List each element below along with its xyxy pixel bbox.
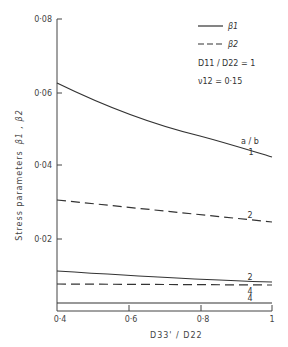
- y-tick-label: 0·02: [34, 235, 52, 244]
- curve-group-label: a / b: [241, 137, 259, 146]
- x-axis: 0·4 0·6 0·8 1: [54, 305, 275, 324]
- chart: 0·08 0·06 0·04 0·02 0·4 0·6 0·8 1 D33' /…: [0, 0, 288, 347]
- curve-label-2-solid: 2: [247, 273, 252, 282]
- x-axis-title: D33' / D22: [150, 331, 203, 340]
- y-tick-label: 0·06: [34, 89, 52, 98]
- y-axis: 0·08 0·06 0·04 0·02: [34, 15, 62, 311]
- x-tick-label: 0·6: [125, 315, 138, 324]
- curve-label-1: 1: [248, 148, 253, 157]
- x-tick-label: 0·8: [197, 315, 210, 324]
- legend-poisson-annotation: ν12 = 0·15: [198, 77, 242, 86]
- y-tick-label: 0·04: [34, 161, 52, 170]
- y-axis-title-text: Stress parametersβ1 , β2: [15, 109, 24, 241]
- y-tick-label: 0·08: [34, 15, 52, 24]
- curve-label-4-solid: 4: [247, 294, 252, 303]
- plot-area: [57, 83, 272, 303]
- legend: β1 β2 D11 / D22 = 1 ν12 = 0·15: [198, 22, 255, 86]
- curve-beta1-ab1: [57, 83, 272, 157]
- curve-label-2-dashed: 2: [247, 211, 252, 220]
- curve-beta2-ab2: [57, 200, 272, 222]
- x-tick-label: 0·4: [54, 315, 67, 324]
- legend-ratio-annotation: D11 / D22 = 1: [198, 59, 255, 68]
- legend-label-beta2: β2: [227, 40, 238, 49]
- legend-label-beta1: β1: [227, 22, 238, 31]
- x-tick-label: 1: [269, 315, 274, 324]
- curve-beta1-ab2: [57, 271, 272, 282]
- curve-beta2-ab4: [57, 284, 272, 285]
- y-axis-title: Stress parametersβ1 , β2: [15, 109, 24, 241]
